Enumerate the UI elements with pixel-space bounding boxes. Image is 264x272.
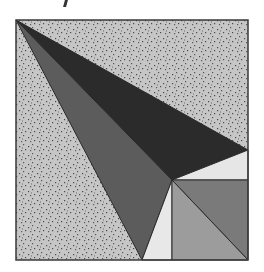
geometric-quilt-figure (0, 0, 264, 272)
